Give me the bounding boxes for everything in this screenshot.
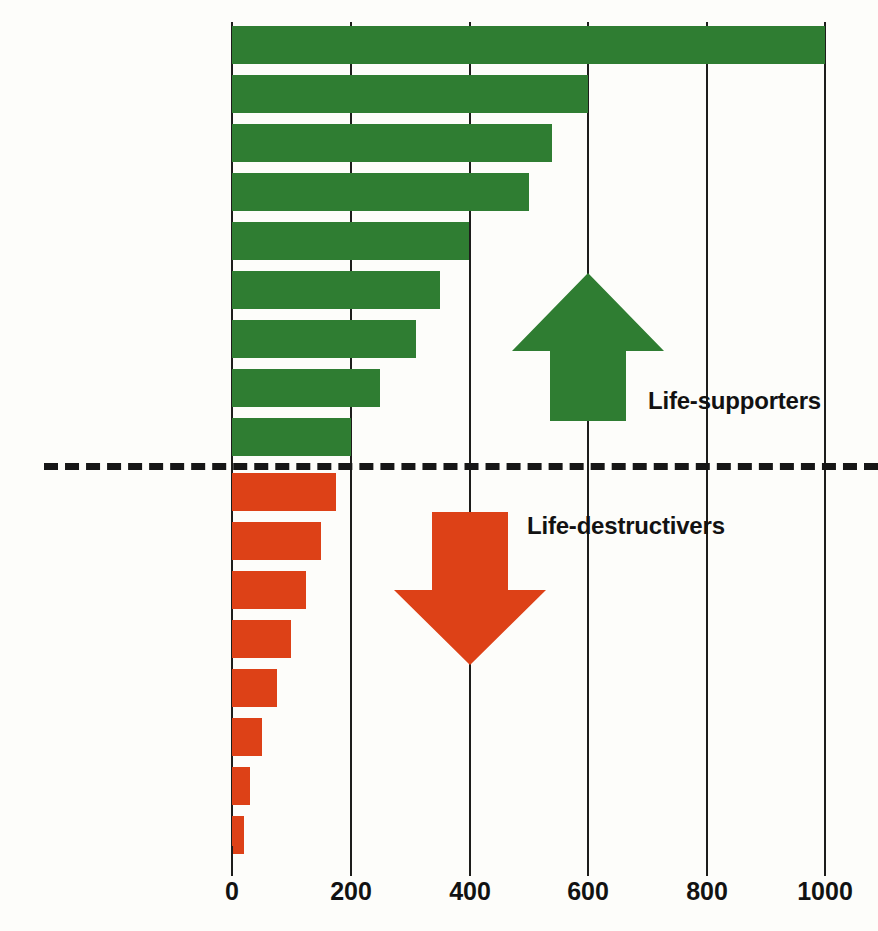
xtick-mark-600 xyxy=(587,846,589,876)
xtick-label-1000: 1000 xyxy=(797,877,853,906)
xtick-mark-400 xyxy=(469,846,471,876)
bar-enlightenment xyxy=(232,26,825,64)
annotation-life-destructivers: Life-destructivers xyxy=(527,512,725,540)
levels-of-consciousness-chart: Enlightenment Peace Joy Love Reason Acce… xyxy=(0,0,878,931)
arrow-down-icon xyxy=(394,512,546,665)
plot-area: Enlightenment Peace Joy Love Reason Acce… xyxy=(0,0,878,931)
bar-grief xyxy=(232,669,277,707)
xtick-mark-200 xyxy=(350,846,352,876)
bar-love xyxy=(232,173,529,211)
bar-acceptance xyxy=(232,271,440,309)
xtick-label-600: 600 xyxy=(567,877,609,906)
gridline-1000 xyxy=(824,22,826,863)
arrow-up-icon xyxy=(512,273,664,421)
xtick-mark-0 xyxy=(231,846,233,876)
bar-courage xyxy=(232,418,351,456)
bar-joy xyxy=(232,124,552,162)
bar-willingness xyxy=(232,320,416,358)
xtick-mark-1000 xyxy=(824,846,826,876)
xtick-label-800: 800 xyxy=(686,877,728,906)
bar-peace xyxy=(232,75,588,113)
xtick-mark-800 xyxy=(706,846,708,876)
annotation-life-supporters: Life-supporters xyxy=(648,387,821,415)
bar-anger xyxy=(232,522,321,560)
bar-neutrality xyxy=(232,369,380,407)
gridline-800 xyxy=(706,22,708,863)
bar-fear xyxy=(232,620,291,658)
xtick-label-0: 0 xyxy=(225,877,239,906)
gridline-600 xyxy=(587,22,589,863)
xtick-label-400: 400 xyxy=(449,877,491,906)
bar-guilt xyxy=(232,767,250,805)
bar-pride xyxy=(232,473,336,511)
bar-shame xyxy=(232,816,244,854)
bar-desire xyxy=(232,571,306,609)
xtick-label-200: 200 xyxy=(330,877,372,906)
group-divider xyxy=(44,463,878,470)
bar-reason xyxy=(232,222,469,260)
bar-apathy xyxy=(232,718,262,756)
